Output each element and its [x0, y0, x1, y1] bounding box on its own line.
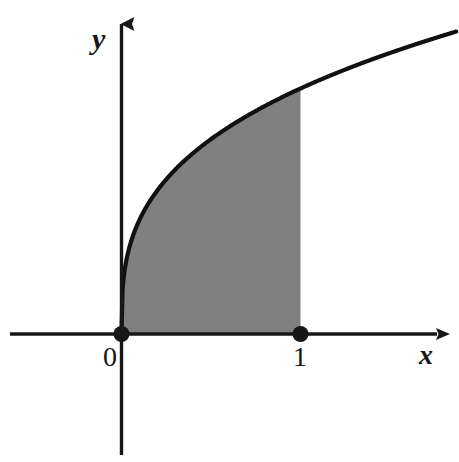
y-axis-label: y [92, 24, 105, 54]
x-axis-label: x [419, 341, 433, 369]
figure-canvas: y x 0 1 [0, 0, 459, 462]
tick-label-origin: 0 [103, 343, 117, 371]
plot-svg [0, 0, 459, 462]
origin-point [114, 326, 130, 342]
shaded-region [122, 89, 301, 335]
tick-label-one: 1 [293, 343, 307, 371]
x-one-point [293, 326, 309, 342]
